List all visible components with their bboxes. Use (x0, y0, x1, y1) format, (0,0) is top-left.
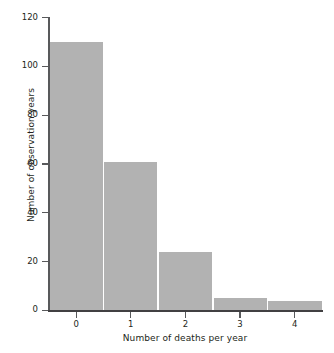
x-tick-mark (185, 312, 186, 318)
x-tick-mark (239, 312, 240, 318)
x-axis-title: Number of deaths per year (48, 333, 322, 343)
bars-group (0, 0, 334, 311)
x-tick-mark (130, 312, 131, 318)
bar (159, 252, 212, 311)
x-tick-mark (76, 312, 77, 318)
bar (104, 162, 157, 311)
bar (268, 301, 322, 311)
x-tick-label: 2 (170, 319, 200, 329)
x-tick-label: 3 (225, 319, 255, 329)
histogram-figure: Number of observation years 020406080100… (0, 0, 334, 353)
x-tick-label: 1 (116, 319, 146, 329)
x-tick-label: 4 (280, 319, 310, 329)
bar (214, 298, 267, 310)
x-tick-mark (294, 312, 295, 318)
x-tick-label: 0 (61, 319, 91, 329)
bar (50, 42, 103, 310)
